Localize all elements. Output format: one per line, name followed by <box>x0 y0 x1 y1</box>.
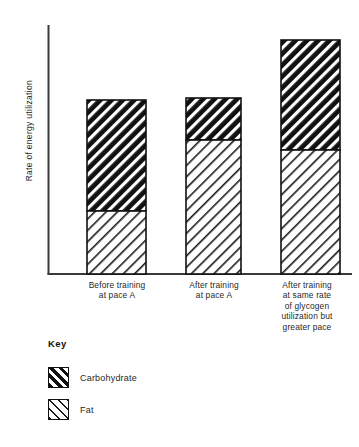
x-axis-tick-label-1-line-0: After training <box>164 280 264 290</box>
bar-segment-fat-1 <box>186 140 241 274</box>
x-axis-tick-label-2-line-3: utilization but <box>262 311 352 321</box>
x-axis-tick-label-2-line-0: After training <box>262 280 352 290</box>
bar-segment-fat-2 <box>281 150 340 274</box>
x-axis-tick-label-0: Before training at pace A <box>62 280 172 301</box>
legend-label-carbohydrate: Carbohydrate <box>80 373 137 383</box>
chart-figure: Rate of energy utilization <box>0 0 359 447</box>
x-axis-tick-label-2-line-4: greater pace <box>262 322 352 332</box>
x-axis-tick-label-0-line-0: Before training <box>62 280 172 290</box>
legend-swatch-carbohydrate-icon <box>48 367 69 388</box>
x-axis-tick-label-2: After training at same rate of glycogen … <box>262 280 352 332</box>
bar-segment-fat-0 <box>87 211 146 274</box>
legend-swatch-fat-icon <box>48 399 69 420</box>
bar-segment-carbohydrate-2 <box>281 40 340 150</box>
legend-title: Key <box>48 338 67 349</box>
x-axis-tick-label-1-line-1: at pace A <box>164 290 264 300</box>
bar-group-1 <box>186 98 241 274</box>
x-axis-tick-label-2-line-1: at same rate <box>262 290 352 300</box>
legend-item-fat: Fat <box>48 399 94 420</box>
x-axis-tick-label-0-line-1: at pace A <box>62 290 172 300</box>
x-axis-tick-label-1: After training at pace A <box>164 280 264 301</box>
bar-group-0 <box>87 100 146 274</box>
bar-segment-carbohydrate-1 <box>186 98 241 140</box>
bar-group-2 <box>281 40 340 274</box>
legend-label-fat: Fat <box>80 405 94 415</box>
legend-item-carbohydrate: Carbohydrate <box>48 367 137 388</box>
bar-segment-carbohydrate-0 <box>87 100 146 211</box>
x-axis-tick-label-2-line-2: of glycogen <box>262 301 352 311</box>
